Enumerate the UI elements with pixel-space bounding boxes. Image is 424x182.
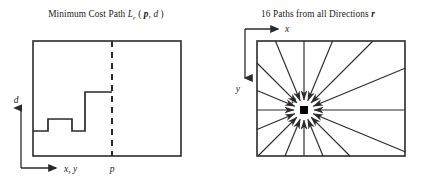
panel-minimum-cost-path: Minimum Cost Path Lr ( p, d ) d x, y p [0,0,212,182]
panel-sixteen-paths: 16 Paths from all Directions r x [212,0,424,182]
minimum-cost-step-path [33,92,112,131]
right-figure-svg: x y p [212,0,424,182]
direction-ray-202-5 [257,114,295,130]
direction-rays [257,41,405,156]
direction-ray-247-5 [285,119,300,156]
axis-label-x: x [284,24,290,34]
left-figure-svg: d x, y p [0,0,212,182]
axis-label-y: y [235,84,241,94]
center-point-p [300,106,308,114]
direction-ray-292-5 [308,119,323,156]
direction-ray-112-5 [275,41,300,101]
center-label-p: p [290,95,296,105]
plot-frame [33,41,181,156]
direction-ray-67-5 [308,41,333,101]
direction-ray-315 [311,117,350,156]
axis-label-d: d [14,95,19,105]
figure-container: Minimum Cost Path Lr ( p, d ) d x, y p [0,0,424,182]
direction-ray-225 [258,117,297,156]
marker-label-p: p [109,164,115,174]
direction-ray-157-5 [257,91,295,107]
axis-label-xy: x, y [63,164,78,174]
